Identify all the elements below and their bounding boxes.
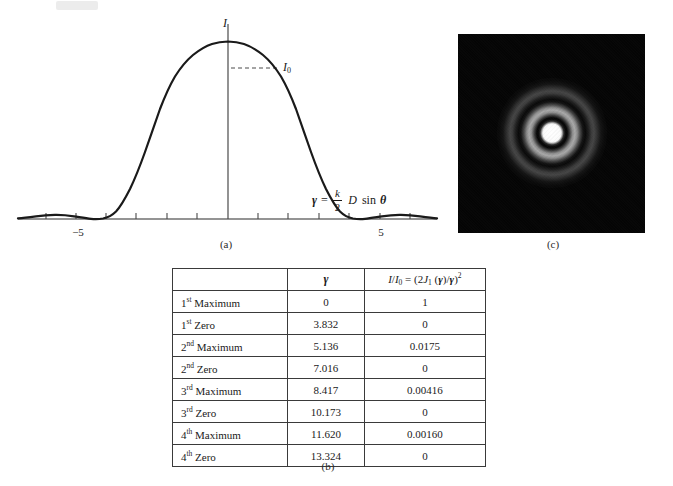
row-label-ordinal: rd	[187, 383, 193, 392]
gamma-symbol: γ	[312, 193, 317, 208]
panel-c-airy-disk-photograph	[458, 34, 645, 233]
row-label-kind: Zero	[196, 406, 217, 418]
table-row: 2nd Zero7.0160	[173, 357, 486, 379]
table-row: 3rd Zero10.1730	[173, 401, 486, 423]
table-row: 1st Zero3.8320	[173, 313, 486, 335]
theta-symbol: θ	[380, 193, 386, 208]
table-head: γ I/I0 = (2J1 (γ)/γ)2	[173, 269, 486, 291]
airy-intensity-curve-svg	[0, 0, 452, 262]
x-tick-label-positive-5: 5	[366, 226, 396, 238]
formula-exponent: 2	[458, 272, 462, 281]
table-row: 3rd Maximum8.4170.00416	[173, 379, 486, 401]
row-label-ordinal: rd	[187, 405, 193, 414]
row-label-ordinal: st	[187, 317, 192, 326]
fraction-denominator: 2	[333, 202, 343, 213]
x-tick-label-negative-5: −5	[63, 226, 93, 238]
row-label-cell: 2nd Zero	[173, 357, 288, 379]
header-intensity-ratio: I/I0 = (2J1 (γ)/γ)2	[364, 269, 485, 291]
header-intensity-ratio-formula: I/I0 = (2J1 (γ)/γ)2	[388, 273, 461, 285]
intensity-ratio-value-cell: 0	[364, 401, 485, 423]
airy-values-table: γ I/I0 = (2J1 (γ)/γ)2 1st Maximum011st Z…	[172, 268, 486, 467]
intensity-ratio-value-cell: 0	[364, 357, 485, 379]
caption-panel-c: (c)	[523, 238, 583, 250]
intensity-ratio-value-cell: 0.00416	[364, 379, 485, 401]
row-label-cell: 3rd Zero	[173, 401, 288, 423]
intensity-ratio-value-cell: 0.00160	[364, 423, 485, 445]
row-label-kind: Maximum	[197, 340, 243, 352]
y-axis-label: I	[223, 16, 227, 31]
diameter-symbol: D	[348, 193, 357, 208]
table-header-row: γ I/I0 = (2J1 (γ)/γ)2	[173, 269, 486, 291]
row-label-ordinal: th	[187, 427, 193, 436]
row-label-cell: 1st Zero	[173, 313, 288, 335]
row-label-kind: Maximum	[194, 296, 240, 308]
header-row-label	[173, 269, 288, 291]
row-label-kind: Maximum	[195, 428, 241, 440]
row-label-cell: 2nd Maximum	[173, 335, 288, 357]
panel-a-intensity-plot: I I0 γ = k 2 D sin θ −5 5	[0, 0, 452, 262]
formula-equals: =	[405, 273, 411, 285]
caption-panel-b: (b)	[298, 460, 358, 472]
table-row: 4th Maximum11.6200.00160	[173, 423, 486, 445]
table-row: 1st Maximum01	[173, 291, 486, 313]
row-label-ordinal: st	[187, 295, 192, 304]
row-label-ordinal: nd	[187, 339, 195, 348]
peak-intensity-subscript: 0	[287, 66, 291, 75]
gamma-value-cell: 5.136	[288, 335, 365, 357]
gamma-value-cell: 0	[288, 291, 365, 313]
intensity-ratio-value-cell: 0.0175	[364, 335, 485, 357]
row-label-cell: 3rd Maximum	[173, 379, 288, 401]
intensity-ratio-value-cell: 0	[364, 445, 485, 467]
k-over-2-fraction: k 2	[333, 188, 343, 213]
row-label-kind: Zero	[194, 318, 215, 330]
figure-page: I I0 γ = k 2 D sin θ −5 5 (a) γ	[0, 0, 673, 486]
equals-sign: =	[321, 193, 328, 208]
formula-I0-sub: 0	[399, 278, 403, 287]
row-label-cell: 4th Zero	[173, 445, 288, 467]
sine-function: sin	[362, 193, 376, 208]
table-row: 2nd Maximum5.1360.0175	[173, 335, 486, 357]
header-gamma-symbol: γ	[323, 272, 328, 286]
header-gamma: γ	[288, 269, 365, 291]
row-label-kind: Maximum	[196, 384, 242, 396]
fraction-numerator: k	[333, 188, 342, 199]
row-label-ordinal: th	[187, 449, 193, 458]
peak-intensity-label: I0	[283, 60, 291, 75]
gamma-value-cell: 11.620	[288, 423, 365, 445]
row-label-cell: 4th Maximum	[173, 423, 288, 445]
row-label-ordinal: nd	[187, 361, 195, 370]
caption-panel-a: (a)	[196, 238, 256, 250]
airy-disk-pattern	[497, 78, 607, 188]
formula-open: (2	[414, 273, 423, 285]
x-axis-expression: γ = k 2 D sin θ	[312, 188, 386, 213]
gamma-value-cell: 7.016	[288, 357, 365, 379]
formula-bessel-order: 1	[428, 278, 432, 287]
intensity-ratio-value-cell: 1	[364, 291, 485, 313]
gamma-value-cell: 3.832	[288, 313, 365, 335]
row-label-cell: 1st Maximum	[173, 291, 288, 313]
panel-b-data-table: γ I/I0 = (2J1 (γ)/γ)2 1st Maximum011st Z…	[172, 268, 486, 467]
gamma-value-cell: 8.417	[288, 379, 365, 401]
intensity-ratio-value-cell: 0	[364, 313, 485, 335]
table-body: 1st Maximum011st Zero3.83202nd Maximum5.…	[173, 291, 486, 467]
row-label-kind: Zero	[195, 450, 216, 462]
gamma-value-cell: 10.173	[288, 401, 365, 423]
row-label-kind: Zero	[197, 362, 218, 374]
